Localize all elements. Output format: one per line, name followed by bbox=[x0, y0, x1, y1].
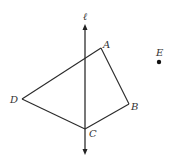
geometry-diagram: ℓ A B C D E bbox=[0, 0, 169, 157]
edge-ab bbox=[101, 48, 129, 104]
point-e bbox=[157, 60, 161, 64]
edge-cd bbox=[22, 99, 85, 129]
vertex-a-label: A bbox=[102, 39, 110, 50]
vertex-c-label: C bbox=[89, 128, 97, 139]
vertex-d-label: D bbox=[9, 94, 18, 105]
edge-bc bbox=[85, 104, 129, 129]
arrowhead-bottom-icon bbox=[83, 149, 88, 155]
arrowhead-top-icon bbox=[83, 24, 88, 30]
vertex-b-label: B bbox=[130, 101, 138, 112]
edge-da bbox=[22, 48, 101, 99]
point-e-label: E bbox=[155, 47, 164, 58]
line-l-label: ℓ bbox=[83, 11, 87, 22]
